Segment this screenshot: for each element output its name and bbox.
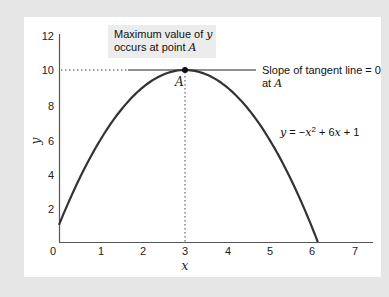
max-annotation-line2: occurs at point A xyxy=(114,41,197,54)
svg-text:10: 10 xyxy=(42,64,54,76)
slope-annotation-line1: Slope of tangent line = 0 xyxy=(262,64,381,76)
x-axis-label: x xyxy=(182,259,189,273)
y-tick-labels: 12 10 8 6 4 2 xyxy=(42,30,54,215)
svg-text:4: 4 xyxy=(225,245,231,257)
svg-text:2: 2 xyxy=(140,245,146,257)
point-a-label: A xyxy=(174,75,184,89)
y-axis-label: y xyxy=(29,137,43,145)
svg-text:0: 0 xyxy=(50,245,56,257)
svg-text:1: 1 xyxy=(98,245,104,257)
equation-label: y = −x2 + 6x + 1 xyxy=(279,125,359,139)
svg-text:6: 6 xyxy=(48,135,54,147)
point-a-marker xyxy=(182,67,188,73)
svg-text:2: 2 xyxy=(48,203,54,215)
svg-text:8: 8 xyxy=(48,100,54,112)
max-annotation-line1: Maximum value of y xyxy=(114,28,213,41)
slope-annotation-line2: at A xyxy=(262,77,282,90)
svg-text:3: 3 xyxy=(182,245,188,257)
svg-text:6: 6 xyxy=(309,245,315,257)
parabola-curve xyxy=(59,70,318,242)
chart-svg: Maximum value of y occurs at point A 12 … xyxy=(0,0,389,297)
svg-text:12: 12 xyxy=(42,30,54,42)
svg-text:7: 7 xyxy=(352,245,358,257)
svg-text:5: 5 xyxy=(267,245,273,257)
x-tick-labels: 0 1 2 3 4 5 6 7 xyxy=(50,245,358,257)
svg-text:4: 4 xyxy=(48,169,54,181)
